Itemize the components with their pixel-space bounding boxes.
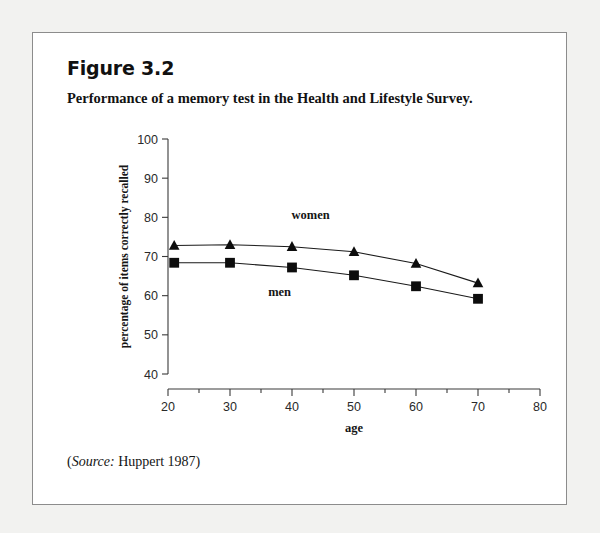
x-tick-label-20: 20: [161, 400, 175, 414]
x-tick-label-40: 40: [285, 400, 299, 414]
marker-women-40: [287, 241, 298, 251]
y-axis-title: percentage of items correctly recalled: [118, 164, 131, 348]
x-axis-title: age: [345, 421, 364, 435]
source-citation: Huppert 1987): [115, 454, 201, 469]
y-tick-label-100: 100: [137, 133, 158, 147]
marker-men-40: [287, 263, 297, 273]
marker-women-30: [225, 239, 236, 249]
marker-men-70: [473, 294, 483, 304]
marker-women-21: [169, 240, 180, 250]
x-tick-label-80: 80: [533, 400, 547, 414]
source-label: Source:: [72, 454, 115, 469]
marker-men-50: [349, 270, 359, 280]
x-tick-label-60: 60: [409, 400, 423, 414]
marker-men-60: [411, 281, 421, 291]
series-annotation-women: women: [291, 208, 329, 222]
y-tick-label-80: 80: [144, 211, 158, 225]
x-tick-label-30: 30: [223, 400, 237, 414]
y-tick-label-70: 70: [144, 250, 158, 264]
x-tick-label-70: 70: [471, 400, 485, 414]
marker-men-21: [169, 258, 179, 268]
y-tick-label-40: 40: [144, 368, 158, 382]
series-annotation-men: men: [268, 285, 291, 299]
y-tick-label-90: 90: [144, 172, 158, 186]
marker-men-30: [225, 258, 235, 268]
series-line-women: [174, 245, 478, 283]
chart-plot-area: 405060708090100percentage of items corre…: [33, 33, 568, 506]
y-tick-label-50: 50: [144, 328, 158, 342]
x-tick-label-50: 50: [347, 400, 361, 414]
source-note: (Source: Huppert 1987): [67, 454, 200, 470]
memory-test-line-chart: 405060708090100percentage of items corre…: [33, 33, 568, 506]
y-tick-label-60: 60: [144, 289, 158, 303]
figure-frame: Figure 3.2 Performance of a memory test …: [32, 32, 567, 505]
